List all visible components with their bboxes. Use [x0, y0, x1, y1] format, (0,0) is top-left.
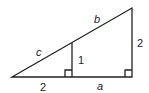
label-inner-height: 1 — [78, 54, 84, 66]
label-base-left: 2 — [40, 81, 46, 93]
label-outer-height: 2 — [137, 37, 143, 49]
right-angle-marker-outer — [125, 70, 132, 77]
label-c: c — [36, 46, 42, 58]
right-angle-marker-inner — [65, 70, 72, 77]
triangle-diagram: c b 1 2 2 a — [0, 0, 149, 93]
label-b: b — [94, 13, 100, 25]
label-a: a — [97, 80, 103, 92]
